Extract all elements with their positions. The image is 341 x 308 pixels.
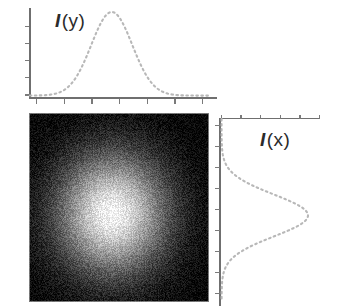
right-profile-label-symbol: I <box>260 129 267 150</box>
intensity-image-canvas <box>29 113 209 302</box>
right-profile-label-argument: (x) <box>267 129 291 150</box>
top-profile-curve <box>22 4 212 108</box>
top-profile-label: I(y) <box>55 10 85 32</box>
top-profile-label-symbol: I <box>55 10 62 31</box>
top-profile-label-argument: (y) <box>62 10 86 31</box>
intensity-image-panel <box>29 113 209 302</box>
right-profile-label: I(x) <box>260 129 290 151</box>
right-profile-panel: I(x) <box>212 113 340 305</box>
figure-root: I(y) I(x) <box>0 0 341 308</box>
top-profile-panel: I(y) <box>22 4 212 108</box>
